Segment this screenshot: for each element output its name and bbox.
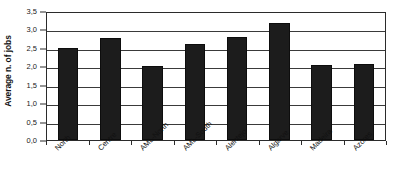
x-axis-tick-mark	[259, 141, 260, 145]
bar-slot	[258, 13, 300, 140]
y-axis-tick-labels: 3,53,02,52,01,51,00,50,0	[16, 12, 40, 141]
bar	[100, 38, 120, 140]
bar-chart: Average n. of jobs 3,53,02,52,01,51,00,5…	[0, 0, 393, 191]
y-axis-title-text: Average n. of jobs	[3, 35, 13, 107]
y-axis-tick-label: 2,5	[15, 45, 37, 53]
y-axis-tick-label: 0,5	[15, 119, 37, 127]
bars-layer	[47, 13, 385, 140]
y-axis-title: Average n. of jobs	[0, 0, 16, 141]
x-axis-tick-mark	[301, 141, 302, 145]
y-axis-tick-label: 1,0	[15, 100, 37, 108]
bar-slot	[343, 13, 385, 140]
bar	[354, 64, 374, 140]
bar	[58, 48, 78, 140]
x-axis-tick-mark	[131, 141, 132, 145]
x-axis-tick-mark	[386, 141, 387, 145]
plot-area	[46, 12, 386, 141]
x-axis-tick-mark	[216, 141, 217, 145]
x-axis-tick-labels: NorthCentreAML-NorthAML-SouthAlentejoAlg…	[46, 146, 386, 191]
y-axis-tick-label: 3,5	[15, 8, 37, 16]
x-axis-tick-mark	[46, 141, 47, 145]
bar-slot	[89, 13, 131, 140]
bar-slot	[216, 13, 258, 140]
y-axis-tick-label: 0,0	[15, 137, 37, 145]
y-axis-tick-label: 2,0	[15, 63, 37, 71]
bar	[227, 37, 247, 140]
bar-slot	[132, 13, 174, 140]
x-axis-tick-mark	[344, 141, 345, 145]
y-axis-tick-label: 1,5	[15, 82, 37, 90]
x-axis-tick-mark	[174, 141, 175, 145]
bar-slot	[301, 13, 343, 140]
y-axis-tick-label: 3,0	[15, 26, 37, 34]
bar-slot	[47, 13, 89, 140]
bar	[269, 23, 289, 140]
x-axis-tick-mark	[89, 141, 90, 145]
